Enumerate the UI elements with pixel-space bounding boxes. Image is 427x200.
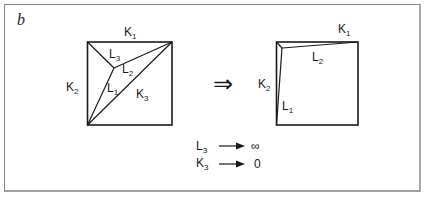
- right-labels: K1 K2 L2 L1: [258, 22, 351, 115]
- label-L2: L2: [122, 62, 134, 78]
- label-L3: L3: [109, 47, 121, 63]
- limits-block: L3 ∞ K3 0: [196, 139, 261, 172]
- label-L1: L1: [107, 81, 119, 97]
- arrow-head-icon: [236, 143, 245, 150]
- implies-arrow-icon: ⇒: [213, 70, 233, 98]
- limit-K3-value: 0: [254, 157, 261, 171]
- label-K2: K2: [258, 77, 271, 93]
- left-square-diagram: [88, 42, 173, 125]
- label-K3: K3: [136, 87, 149, 103]
- label-K1: K1: [338, 22, 351, 38]
- limit-L3-label: L3: [196, 139, 208, 155]
- edge-collapsed-L3: [277, 42, 283, 48]
- arrow-head-icon: [236, 161, 245, 168]
- label-L1: L1: [282, 99, 294, 115]
- edge-L2: [282, 42, 358, 48]
- panel-label: b: [17, 11, 25, 28]
- label-L2: L2: [312, 50, 324, 66]
- diagram-canvas: b K1 K2 L3 L2 L1 K3 ⇒ K1 K2 L2 L1 L3 ∞ K…: [0, 0, 427, 200]
- limit-K3-label: K3: [196, 156, 209, 172]
- left-labels: K1 K2 L3 L2 L1 K3: [66, 25, 149, 103]
- label-K2: K2: [66, 80, 79, 96]
- edge-L1: [277, 48, 283, 125]
- limit-L3-value: ∞: [251, 139, 260, 153]
- edge-L1: [88, 68, 115, 125]
- label-K1: K1: [124, 25, 137, 41]
